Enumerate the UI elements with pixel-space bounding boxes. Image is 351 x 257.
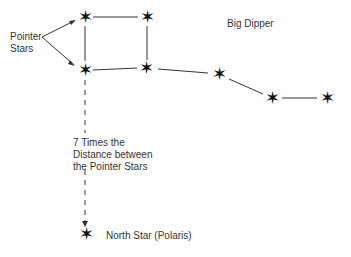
diagram-title: Big Dipper xyxy=(227,18,274,30)
polaris-star-icon: ✶ xyxy=(77,225,95,243)
pointer-arrow-lower xyxy=(42,37,73,64)
handle-segment-2 xyxy=(229,79,263,94)
star-icon: ✶ xyxy=(76,61,94,79)
star-icon: ✶ xyxy=(138,8,156,26)
pointer-arrow-upper xyxy=(42,21,74,37)
arrowhead-upper xyxy=(69,20,76,25)
star-icon: ✶ xyxy=(76,8,94,26)
star-icon: ✶ xyxy=(263,89,281,107)
star-icon: ✶ xyxy=(318,89,336,107)
distance-note-label: 7 Times the Distance between the Pointer… xyxy=(73,137,153,173)
bowl-bottom-edge xyxy=(93,68,137,70)
big-dipper-diagram xyxy=(0,0,351,257)
star-icon: ✶ xyxy=(137,59,155,77)
star-icon: ✶ xyxy=(210,65,228,83)
pointer-stars-label: Pointer Stars xyxy=(10,31,42,55)
north-star-label: North Star (Polaris) xyxy=(106,230,192,242)
handle-segment-1 xyxy=(158,69,208,73)
